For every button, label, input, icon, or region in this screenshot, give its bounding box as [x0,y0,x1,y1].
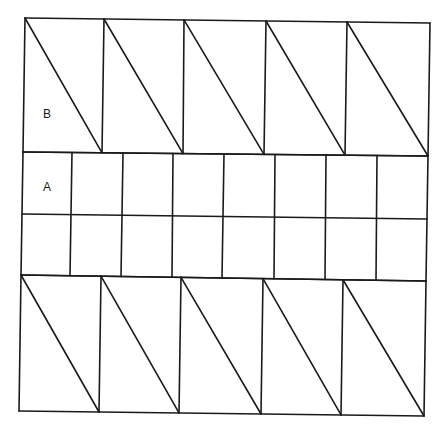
middle-band-col-line-8 [426,156,428,281]
bottom-band-top-edge [21,275,426,281]
middle-band-col-line-7 [376,155,377,280]
top-band-vertical-0 [23,18,25,152]
middle-band-col-line-1 [70,152,72,275]
top-band-vertical-5 [428,23,430,156]
top-band-vertical-1 [102,19,104,153]
top-band-vertical-3 [264,21,266,154]
middle-band-row-line-0 [23,152,428,156]
middle-band-col-line-3 [172,153,173,277]
middle-band-col-line-2 [121,153,123,276]
top-band-diagonal-0 [25,18,102,153]
top-band-diagonal-3 [266,21,345,155]
top-band-vertical-4 [345,22,347,155]
top-band-diagonal-2 [184,20,264,154]
middle-band-row-line-1 [22,214,427,219]
tiling-diagram: B A [0,0,445,432]
bottom-band-diagonal-3 [263,279,341,415]
bottom-band-vertical-0 [19,275,21,411]
bottom-band-bottom-edge [19,411,424,416]
bottom-band-diagonal-4 [343,280,424,416]
bottom-band-diagonal-2 [181,277,261,414]
bottom-band-vertical-3 [261,279,263,414]
bottom-band-vertical-4 [341,280,343,415]
middle-band-col-line-0 [21,152,23,275]
label-b: B [43,107,51,121]
middle-band-col-line-4 [222,154,224,278]
bottom-band-vertical-2 [179,277,181,413]
grid-lines [19,18,430,416]
bottom-band-vertical-1 [99,276,101,412]
top-band-top-edge [25,18,430,23]
middle-band-col-line-6 [325,155,326,280]
top-band-vertical-2 [183,20,184,154]
top-band-diagonal-1 [104,19,183,154]
middle-band-col-line-5 [274,154,275,278]
label-a: A [43,180,51,194]
bottom-band-vertical-5 [424,281,426,416]
bottom-band-diagonal-0 [21,275,99,412]
top-band-diagonal-4 [347,22,428,156]
bottom-band-diagonal-1 [101,276,179,413]
